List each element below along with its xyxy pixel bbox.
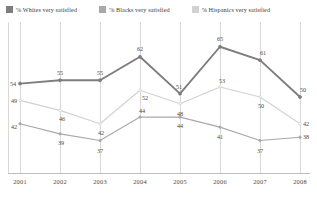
series-lines bbox=[8, 22, 310, 174]
data-label-hispanics: 46 bbox=[59, 115, 65, 122]
data-label-hispanics: 42 bbox=[303, 119, 309, 126]
data-point-marker[interactable] bbox=[299, 136, 301, 138]
legend-label-whites: % Whites very satisfied bbox=[16, 6, 77, 13]
data-point-marker[interactable] bbox=[139, 55, 142, 58]
legend-label-hispanics: % Hispanics very satisfied bbox=[202, 6, 270, 13]
data-label-whites: 55 bbox=[57, 69, 63, 76]
data-point-marker[interactable] bbox=[99, 79, 102, 82]
legend-swatch-icon bbox=[6, 6, 13, 13]
data-point-marker[interactable] bbox=[99, 139, 101, 141]
data-label-hispanics: 50 bbox=[258, 102, 264, 109]
data-point-marker[interactable] bbox=[19, 99, 21, 101]
data-point-marker[interactable] bbox=[219, 45, 222, 48]
data-label-whites: 61 bbox=[260, 49, 266, 56]
data-point-marker[interactable] bbox=[59, 109, 61, 111]
chart-legend: % Whites very satisfied % Blacks very sa… bbox=[0, 0, 317, 18]
data-point-marker[interactable] bbox=[259, 59, 262, 62]
data-label-blacks: 44 bbox=[139, 107, 145, 114]
data-label-hispanics: 42 bbox=[98, 128, 104, 135]
x-tick-label: 2004 bbox=[133, 178, 147, 185]
data-point-marker[interactable] bbox=[19, 123, 21, 125]
data-label-whites: 54 bbox=[10, 79, 16, 86]
legend-label-blacks: % Blacks very satisfied bbox=[109, 6, 170, 13]
x-tick-label: 2008 bbox=[293, 178, 307, 185]
data-label-whites: 51 bbox=[176, 82, 182, 89]
legend-item-hispanics[interactable]: % Hispanics very satisfied bbox=[192, 6, 270, 13]
data-point-marker[interactable] bbox=[259, 139, 261, 141]
data-label-hispanics: 49 bbox=[11, 97, 17, 104]
x-axis-line bbox=[8, 173, 310, 174]
legend-swatch-icon bbox=[192, 6, 199, 13]
data-point-marker[interactable] bbox=[219, 126, 221, 128]
data-point-marker[interactable] bbox=[179, 92, 182, 95]
data-label-blacks: 37 bbox=[97, 146, 103, 153]
data-point-marker[interactable] bbox=[179, 116, 181, 118]
x-tick-label: 2006 bbox=[213, 178, 227, 185]
x-tick-label: 2007 bbox=[253, 178, 267, 185]
data-point-marker[interactable] bbox=[59, 79, 62, 82]
data-label-whites: 55 bbox=[97, 69, 103, 76]
data-label-blacks: 39 bbox=[58, 138, 64, 145]
data-label-hispanics: 48 bbox=[177, 109, 183, 116]
data-point-marker[interactable] bbox=[299, 123, 301, 125]
legend-item-whites[interactable]: % Whites very satisfied bbox=[6, 6, 77, 13]
data-label-blacks: 44 bbox=[177, 122, 183, 129]
line-chart: % Whites very satisfied % Blacks very sa… bbox=[0, 0, 317, 197]
data-point-marker[interactable] bbox=[259, 96, 261, 98]
x-tick-label: 2003 bbox=[93, 178, 107, 185]
x-tick-label: 2005 bbox=[173, 178, 187, 185]
data-label-blacks: 41 bbox=[217, 133, 223, 140]
legend-item-blacks[interactable]: % Blacks very satisfied bbox=[99, 6, 170, 13]
data-label-blacks: 38 bbox=[303, 133, 309, 140]
data-point-marker[interactable] bbox=[99, 123, 101, 125]
data-point-marker[interactable] bbox=[219, 86, 221, 88]
data-label-blacks: 37 bbox=[257, 146, 263, 153]
plot-area: 5455556251656150423937444441373849464252… bbox=[8, 22, 310, 174]
data-label-whites: 65 bbox=[217, 34, 223, 41]
data-label-hispanics: 52 bbox=[142, 94, 148, 101]
data-point-marker[interactable] bbox=[139, 116, 141, 118]
data-label-whites: 50 bbox=[300, 86, 306, 93]
x-axis-ticks: 20012002200320042005200620072008 bbox=[8, 178, 310, 192]
data-point-marker[interactable] bbox=[59, 133, 61, 135]
legend-swatch-icon bbox=[99, 6, 106, 13]
data-label-hispanics: 53 bbox=[219, 76, 225, 83]
data-point-marker[interactable] bbox=[139, 89, 141, 91]
data-point-marker[interactable] bbox=[299, 96, 302, 99]
x-tick-label: 2001 bbox=[13, 178, 27, 185]
data-point-marker[interactable] bbox=[179, 103, 181, 105]
data-label-blacks: 42 bbox=[11, 122, 17, 129]
x-tick-label: 2002 bbox=[53, 178, 67, 185]
data-point-marker[interactable] bbox=[19, 82, 22, 85]
data-label-whites: 62 bbox=[137, 44, 143, 51]
